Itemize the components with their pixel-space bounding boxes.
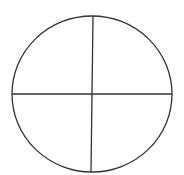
quadrant-circle-diagram bbox=[0, 0, 184, 175]
